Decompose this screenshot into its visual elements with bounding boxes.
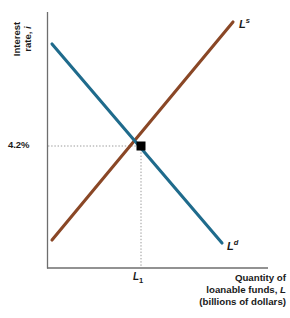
- supply-curve: [52, 22, 233, 240]
- demand-curve-label: Ld: [227, 238, 238, 252]
- chart-plot-area: [0, 0, 290, 318]
- equilibrium-point-marker: [137, 142, 146, 151]
- y-axis-symbol-i: i: [22, 26, 33, 29]
- supply-label-base: L: [239, 18, 246, 30]
- y-axis-tick-label-4-2-percent: 4.2%: [8, 139, 29, 150]
- supply-curve-label: Ls: [239, 16, 250, 30]
- y-axis-title-line2: rate,: [22, 29, 33, 52]
- y-axis-title-line1: Interest: [11, 22, 22, 56]
- x-axis-symbol-L: L: [280, 284, 286, 295]
- demand-label-superscript: d: [234, 238, 239, 247]
- y-axis-title: Interest rate, i: [11, 3, 33, 75]
- x-axis-title-line2: loanable funds,: [206, 284, 280, 295]
- x-axis-title-line3: (billions of dollars): [199, 296, 286, 307]
- x-tick-subscript: 1: [139, 276, 143, 285]
- x-axis-title: Quantity of loanable funds, L (billions …: [150, 272, 286, 309]
- demand-label-base: L: [227, 240, 234, 252]
- loanable-funds-market-chart: Interest rate, i 4.2% L1 Quantity of loa…: [0, 0, 290, 318]
- x-axis-tick-label-L1: L1: [133, 271, 143, 285]
- x-axis-title-line1: Quantity of: [235, 272, 286, 283]
- supply-label-superscript: s: [246, 16, 250, 25]
